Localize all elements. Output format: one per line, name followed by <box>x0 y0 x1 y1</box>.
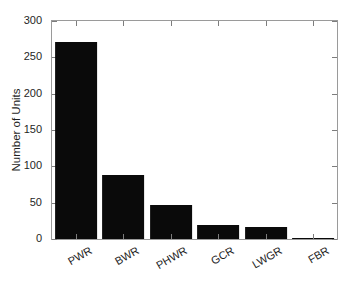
y-tick-label: 250 <box>24 50 42 62</box>
x-tick-mark <box>218 234 219 239</box>
x-tick-label-fbr: FBR <box>306 244 331 265</box>
y-tick-label: 50 <box>30 196 42 208</box>
x-tick-label-gcr: GCR <box>209 244 236 267</box>
y-axis-tick-labels: 050100150200250300 <box>0 20 46 240</box>
x-tick-mark-top <box>266 21 267 26</box>
plot-box <box>51 20 338 240</box>
y-tick-label: 100 <box>24 159 42 171</box>
bar-pwr <box>55 42 97 239</box>
x-tick-mark-top <box>123 21 124 26</box>
y-tick-mark-right <box>332 166 337 167</box>
plot-area <box>52 21 337 239</box>
y-tick-label: 0 <box>36 232 42 244</box>
x-tick-mark <box>171 234 172 239</box>
x-tick-label-bwr: BWR <box>113 244 141 267</box>
x-tick-mark <box>123 234 124 239</box>
x-tick-label-phwr: PHWR <box>154 244 189 271</box>
y-tick-mark-right <box>332 21 337 22</box>
y-tick-mark-right <box>332 130 337 131</box>
x-tick-label-lwgr: LWGR <box>250 244 284 270</box>
bar-bwr <box>102 175 144 239</box>
x-axis-tick-labels: PWRBWRPHWRGCRLWGRFBR <box>51 241 338 284</box>
x-tick-mark <box>313 234 314 239</box>
y-tick-label: 300 <box>24 14 42 26</box>
y-tick-mark <box>52 239 57 240</box>
y-tick-mark-right <box>332 94 337 95</box>
bar-chart-figure: Number of Units 050100150200250300 PWRBW… <box>0 0 356 284</box>
x-tick-mark <box>266 234 267 239</box>
x-tick-mark-top <box>313 21 314 26</box>
x-tick-mark-top <box>76 21 77 26</box>
y-tick-label: 150 <box>24 123 42 135</box>
x-tick-mark <box>76 234 77 239</box>
x-tick-mark-top <box>218 21 219 26</box>
y-tick-mark-right <box>332 239 337 240</box>
x-tick-label-pwr: PWR <box>66 244 94 267</box>
y-tick-mark-right <box>332 57 337 58</box>
x-tick-mark-top <box>171 21 172 26</box>
y-tick-label: 200 <box>24 87 42 99</box>
y-tick-mark-right <box>332 203 337 204</box>
y-tick-mark <box>52 21 57 22</box>
